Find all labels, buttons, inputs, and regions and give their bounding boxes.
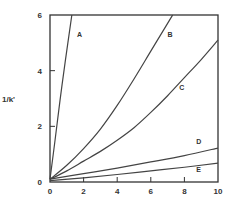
- x-tick-label: 0: [48, 187, 53, 196]
- x-tick-label: 4: [115, 187, 120, 196]
- curve-a: [50, 15, 72, 179]
- curve-labels: ABCDE: [77, 31, 201, 173]
- x-ticks: 0246810: [48, 177, 223, 196]
- y-tick-label: 4: [38, 67, 43, 76]
- x-tick-label: 8: [182, 187, 187, 196]
- x-tick-label: 2: [81, 187, 86, 196]
- curves: [50, 15, 218, 181]
- x-tick-label: 6: [149, 187, 154, 196]
- curve-label-c: C: [179, 84, 184, 91]
- curve-label-a: A: [77, 31, 82, 38]
- x-tick-label: 10: [214, 187, 223, 196]
- curve-label-b: B: [168, 31, 173, 38]
- y-tick-label: 0: [38, 178, 43, 187]
- curve-c: [50, 40, 218, 179]
- y-axis-title: 1/k': [2, 95, 15, 104]
- curve-d: [50, 148, 218, 179]
- y-tick-label: 6: [38, 11, 43, 20]
- y-tick-label: 2: [38, 122, 43, 131]
- curve-label-d: D: [196, 138, 201, 145]
- curve-label-e: E: [196, 166, 201, 173]
- chart: 0246810 0246 ABCDE 1/k': [0, 0, 234, 213]
